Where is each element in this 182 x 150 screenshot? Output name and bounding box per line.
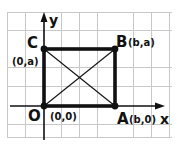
point-O-coords: (0,0) — [50, 111, 77, 122]
point-C-letter: C — [27, 34, 38, 52]
point-C-dot — [41, 46, 48, 53]
point-O-dot — [41, 103, 48, 110]
y-axis-label: y — [49, 12, 58, 28]
x-axis-label: x — [160, 111, 169, 127]
point-B-letter: B — [116, 33, 127, 51]
coordinate-diagram: y x C (0,a) B (b,a) O (0,0) A (b,0) — [0, 0, 182, 150]
point-B-coords: (b,a) — [128, 37, 155, 48]
point-O-letter: O — [28, 107, 41, 125]
point-C-coords: (0,a) — [12, 56, 39, 67]
point-A-dot — [112, 103, 119, 110]
point-A-letter: A — [117, 110, 129, 128]
y-axis-arrow-icon — [41, 12, 48, 22]
x-axis-arrow-icon — [155, 103, 165, 110]
point-A-coords: (b,0) — [129, 114, 156, 125]
